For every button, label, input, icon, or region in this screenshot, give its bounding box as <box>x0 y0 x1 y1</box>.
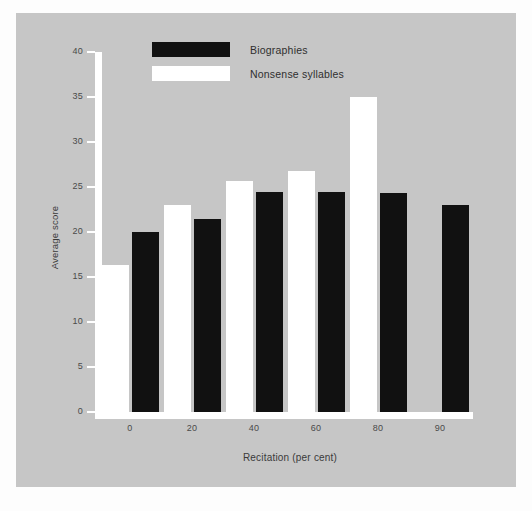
bar-biographies <box>194 219 221 413</box>
bar-nonsense-syllables <box>350 97 377 412</box>
legend-entry-nonsense-syllables: Nonsense syllables <box>152 66 382 81</box>
bar-nonsense-syllables <box>102 265 129 412</box>
legend-entry-biographies: Biographies <box>152 42 382 57</box>
chart-figure: 0510152025303540 Average score 020406080… <box>0 0 532 511</box>
bar-biographies <box>256 192 283 412</box>
bar-nonsense-syllables <box>226 181 253 412</box>
legend-swatch-biographies <box>152 42 230 57</box>
chart-legend: Biographies Nonsense syllables <box>152 42 382 90</box>
bar-biographies <box>442 205 469 412</box>
bar-biographies <box>318 192 345 412</box>
bar-nonsense-syllables <box>288 171 315 412</box>
legend-swatch-nonsense-syllables <box>152 66 230 81</box>
bar-biographies <box>380 193 407 412</box>
legend-label-nonsense-syllables: Nonsense syllables <box>250 68 344 80</box>
bar-biographies <box>132 232 159 412</box>
legend-label-biographies: Biographies <box>250 44 308 56</box>
bar-nonsense-syllables <box>164 205 191 412</box>
